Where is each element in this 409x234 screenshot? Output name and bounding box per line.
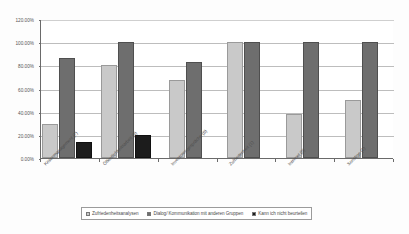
bar bbox=[227, 42, 243, 158]
legend-item: Kann ich nicht beurteilen bbox=[252, 211, 307, 216]
gridline bbox=[41, 66, 394, 67]
y-axis-tick-mark bbox=[39, 113, 41, 114]
x-axis-tick-mark bbox=[40, 159, 41, 162]
legend-item: Zufriedenheitsanalysen bbox=[86, 211, 138, 216]
legend-item: Dialog/ Kommunikation mit anderen Gruppe… bbox=[147, 211, 243, 216]
y-axis-tick-mark bbox=[39, 43, 41, 44]
x-axis-tick-mark bbox=[99, 159, 100, 162]
legend-swatch-icon bbox=[147, 212, 151, 216]
gridline bbox=[41, 43, 394, 44]
y-axis-tick-label: 120.00% bbox=[0, 18, 34, 23]
x-axis-tick-mark bbox=[275, 159, 276, 162]
y-axis-tick-mark bbox=[39, 66, 41, 67]
bar bbox=[101, 65, 117, 158]
x-axis-tick-mark bbox=[393, 159, 394, 162]
legend-label: Zufriedenheitsanalysen bbox=[92, 211, 138, 216]
gridline bbox=[41, 136, 394, 137]
y-axis-tick-mark bbox=[39, 20, 41, 21]
y-axis-tick-labels: 0.00%20.00%40.00%60.00%80.00%100.00%120.… bbox=[0, 0, 38, 139]
legend-swatch-icon bbox=[252, 212, 256, 216]
bar bbox=[135, 135, 151, 158]
legend-label: Dialog/ Kommunikation mit anderen Gruppe… bbox=[153, 211, 243, 216]
bar bbox=[76, 142, 92, 158]
bar bbox=[303, 42, 319, 158]
y-axis-tick-label: 40.00% bbox=[0, 110, 34, 115]
gridline bbox=[41, 20, 394, 21]
y-axis-tick-mark bbox=[39, 136, 41, 137]
gridline bbox=[41, 113, 394, 114]
bar-chart: 0.00%20.00%40.00%60.00%80.00%100.00%120.… bbox=[0, 0, 409, 234]
x-axis-tick-mark bbox=[217, 159, 218, 162]
y-axis-tick-label: 20.00% bbox=[0, 133, 34, 138]
legend-label: Kann ich nicht beurteilen bbox=[258, 211, 307, 216]
chart-legend: ZufriedenheitsanalysenDialog/ Kommunikat… bbox=[81, 207, 312, 220]
y-axis-tick-label: 100.00% bbox=[0, 41, 34, 46]
gridline bbox=[41, 90, 394, 91]
y-axis-tick-label: 0.00% bbox=[0, 157, 34, 162]
y-axis-tick-label: 80.00% bbox=[0, 64, 34, 69]
x-axis-tick-mark bbox=[158, 159, 159, 162]
y-axis-tick-mark bbox=[39, 90, 41, 91]
x-axis-tick-mark bbox=[334, 159, 335, 162]
legend-swatch-icon bbox=[86, 212, 90, 216]
plot-area bbox=[40, 20, 393, 159]
bar bbox=[169, 80, 185, 158]
bar bbox=[362, 42, 378, 158]
y-axis-tick-label: 60.00% bbox=[0, 87, 34, 92]
